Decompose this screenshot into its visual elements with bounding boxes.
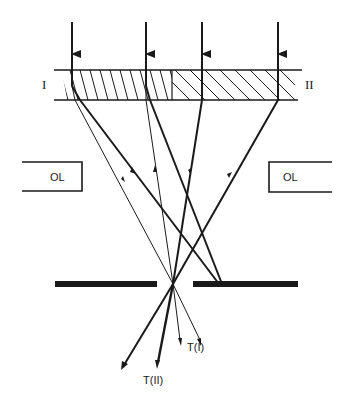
scattered-beams: [72, 86, 278, 370]
incident-beams: [72, 22, 278, 100]
crystal-region-II-hatching: [160, 70, 310, 100]
lens-label-right: OL: [283, 171, 298, 183]
diffraction-diagram: I II OL OL T(I) T(II): [0, 0, 346, 402]
region-label-II: II: [305, 77, 314, 92]
beam-label-T-I: T(I): [187, 341, 204, 353]
lens-label-left: OL: [50, 171, 65, 183]
beam-label-T-II: T(II): [143, 374, 163, 386]
region-label-I: I: [42, 77, 46, 92]
objective-lens-right: [269, 162, 332, 192]
objective-aperture: [55, 281, 298, 287]
